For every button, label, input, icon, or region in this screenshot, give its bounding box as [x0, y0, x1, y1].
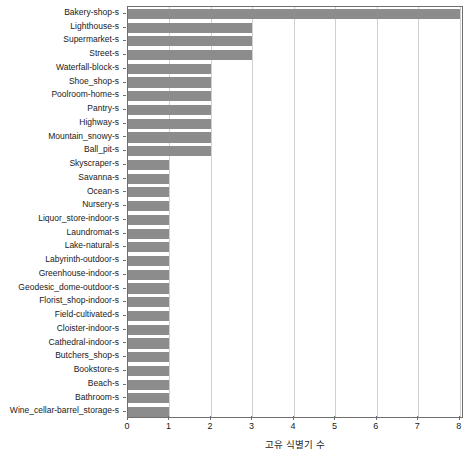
y-axis-tick — [123, 233, 126, 234]
y-axis-tick-labels: Bakery-shop-sLighthouse-sSupermarket-sSt… — [0, 6, 123, 418]
x-axis-tick-label: 1 — [166, 420, 171, 432]
bar-row — [128, 117, 462, 131]
bar-row — [128, 186, 462, 200]
y-axis-tick-label: Geodesic_dome-outdoor-s — [0, 281, 123, 295]
bar-row — [128, 7, 462, 21]
x-axis-tick-labels: 012345678 — [127, 420, 463, 434]
bar-row — [128, 144, 462, 158]
bar — [128, 91, 211, 101]
y-axis-tick-label: Laundromat-s — [0, 226, 123, 240]
y-axis-tick — [123, 397, 126, 398]
bar — [128, 393, 169, 403]
y-axis-tick-label: Labyrinth-outdoor-s — [0, 253, 123, 267]
y-axis-tick — [123, 260, 126, 261]
x-axis-tick-label: 5 — [332, 420, 337, 432]
x-axis-tick — [293, 416, 294, 420]
y-axis-tick-label: Florist_shop-indoor-s — [0, 294, 123, 308]
y-axis-tick — [123, 384, 126, 385]
bar-row — [128, 213, 462, 227]
x-axis-tick-label: 7 — [415, 420, 420, 432]
bar — [128, 119, 211, 129]
y-axis-tick — [123, 178, 126, 179]
bar-row — [128, 48, 462, 62]
bar-row — [128, 323, 462, 337]
y-axis-tick-label: Ocean-s — [0, 185, 123, 199]
y-axis-tick — [123, 123, 126, 124]
y-axis-tick-label: Lighthouse-s — [0, 20, 123, 34]
bar — [128, 256, 169, 266]
bar-row — [128, 103, 462, 117]
x-axis-tick-label: 6 — [373, 420, 378, 432]
y-axis-tick — [123, 411, 126, 412]
y-axis-tick-label: Cloister-indoor-s — [0, 322, 123, 336]
bar-rows — [128, 7, 462, 417]
y-axis-tick — [123, 54, 126, 55]
y-axis-tick — [123, 95, 126, 96]
bar — [128, 9, 460, 19]
bar-row — [128, 172, 462, 186]
bar — [128, 242, 169, 252]
x-axis-tick — [251, 416, 252, 420]
plot-area — [127, 6, 463, 418]
bar — [128, 160, 169, 170]
y-axis-tick — [123, 370, 126, 371]
y-axis-tick — [123, 68, 126, 69]
y-axis-tick — [123, 164, 126, 165]
bar-row — [128, 21, 462, 35]
bar-row — [128, 199, 462, 213]
bar — [128, 311, 169, 321]
bar-row — [128, 254, 462, 268]
bar-row — [128, 378, 462, 392]
y-axis-tick — [123, 301, 126, 302]
bar — [128, 325, 169, 335]
y-axis-tick — [123, 274, 126, 275]
x-axis-tick — [417, 416, 418, 420]
y-axis-tick-label: Liquor_store-indoor-s — [0, 212, 123, 226]
bar — [128, 64, 211, 74]
y-axis-tick-label: Butchers_shop-s — [0, 349, 123, 363]
y-axis-tick-label: Lake-natural-s — [0, 239, 123, 253]
bar-row — [128, 227, 462, 241]
y-axis-tick — [123, 191, 126, 192]
bar-row — [128, 364, 462, 378]
bar — [128, 380, 169, 390]
y-axis-tick — [123, 136, 126, 137]
y-axis-tick-label: Highway-s — [0, 116, 123, 130]
bar — [128, 352, 169, 362]
bar-row — [128, 392, 462, 406]
x-axis-tick-label: 8 — [456, 420, 461, 432]
bar-row — [128, 240, 462, 254]
bar — [128, 77, 211, 87]
x-axis-tick-label: 0 — [124, 420, 129, 432]
y-axis-tick-label: Waterfall-block-s — [0, 61, 123, 75]
bar — [128, 229, 169, 239]
y-axis-tick-label: Ball_pit-s — [0, 143, 123, 157]
y-axis-tick — [123, 150, 126, 151]
bar — [128, 187, 169, 197]
bar — [128, 270, 169, 280]
y-axis-tick — [123, 27, 126, 28]
y-axis-tick — [123, 219, 126, 220]
bar — [128, 215, 169, 225]
y-axis-tick-label: Supermarket-s — [0, 33, 123, 47]
bar-row — [128, 295, 462, 309]
y-axis-tick-label: Savanna-s — [0, 171, 123, 185]
x-axis-label: 고유 식별기 수 — [127, 437, 463, 451]
y-axis-tick — [123, 356, 126, 357]
bar-row — [128, 350, 462, 364]
y-axis-tick-label: Bathroom-s — [0, 391, 123, 405]
y-axis-tick — [123, 288, 126, 289]
x-axis-tick-label: 3 — [249, 420, 254, 432]
bar-row — [128, 309, 462, 323]
bar — [128, 146, 211, 156]
y-axis-tick-label: Skyscraper-s — [0, 157, 123, 171]
chart-title — [0, 0, 470, 3]
bar-row — [128, 89, 462, 103]
bar — [128, 366, 169, 376]
bar-row — [128, 268, 462, 282]
y-axis-tick — [123, 40, 126, 41]
bar-chart-figure: Bakery-shop-sLighthouse-sSupermarket-sSt… — [0, 0, 470, 458]
y-axis-tick-label: Bookstore-s — [0, 363, 123, 377]
bar — [128, 50, 252, 60]
bar — [128, 283, 169, 293]
